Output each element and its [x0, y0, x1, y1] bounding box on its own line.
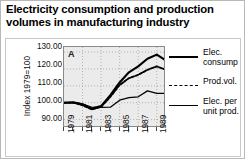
chart-figure: Electricity consumption and production v… [0, 0, 245, 159]
x-tick-label: 1989 [159, 115, 168, 133]
y-tick-label: 130.00 [22, 42, 62, 51]
x-tick-label: 1981 [85, 115, 94, 133]
x-tick-label: 1985 [122, 115, 131, 133]
x-tick-mark [156, 127, 157, 131]
x-tick-label: 1983 [104, 115, 113, 133]
legend-swatch-thin-line-icon [169, 105, 198, 114]
x-tick-mark [82, 127, 83, 131]
panel-letter-label: A [68, 49, 75, 59]
y-tick-label: 120.00 [22, 60, 62, 69]
chart-title: Electricity consumption and production v… [6, 3, 238, 28]
legend-label: Elec. consump [203, 48, 245, 67]
legend-item: Prod.vol. [169, 78, 239, 91]
legend-item: Elec. per unit prod. [169, 98, 239, 120]
x-tick-label: 1987 [141, 115, 150, 133]
legend-label: Elec. per unit prod. [203, 97, 245, 116]
legend-label: Prod.vol. [203, 77, 245, 87]
legend-swatch-line-icon [169, 56, 198, 66]
chart-panel: Index 1979=100 130.00 120.00 110.00 100.… [5, 38, 241, 157]
y-tick-label: 90.00 [22, 114, 62, 123]
y-axis-ticks: 130.00 120.00 110.00 100.00 90.00 [20, 39, 62, 158]
x-tick-mark [137, 127, 138, 131]
x-tick-mark [119, 127, 120, 131]
chart-legend: Elec. consump Prod.vol. Elec. per unit p… [169, 49, 239, 127]
legend-item: Elec. consump [169, 49, 239, 71]
x-tick-mark [100, 127, 101, 131]
x-tick-label: 1979 [67, 115, 76, 133]
legend-swatch-dashed-icon [169, 85, 198, 86]
x-axis-ticks: 197919811983198519871989 [63, 127, 165, 133]
x-tick-mark [63, 127, 64, 131]
y-tick-label: 100.00 [22, 96, 62, 105]
y-tick-label: 110.00 [22, 78, 62, 87]
